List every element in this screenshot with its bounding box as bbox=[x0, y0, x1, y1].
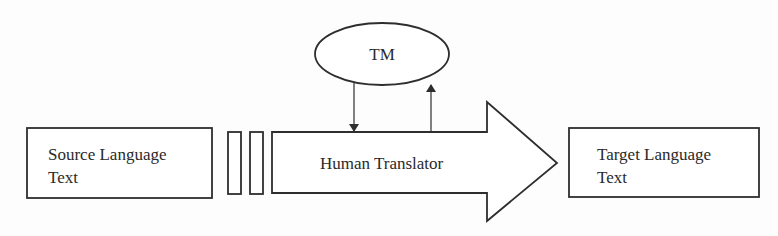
target-text-label-line1: Target Language bbox=[597, 145, 711, 164]
tm-node: TM bbox=[315, 23, 449, 85]
tm-label: TM bbox=[369, 45, 395, 64]
human-translator-label: Human Translator bbox=[320, 154, 444, 173]
source-text-label-line2: Text bbox=[48, 168, 78, 187]
source-text-label-line1: Source Language bbox=[48, 145, 166, 164]
target-text-node: Target Language Text bbox=[569, 128, 759, 197]
segment-bar-1 bbox=[228, 132, 241, 194]
segment-bars bbox=[228, 132, 263, 194]
segment-bar-2 bbox=[250, 132, 263, 194]
target-text-label-line2: Text bbox=[597, 168, 627, 187]
source-text-node: Source Language Text bbox=[27, 128, 212, 198]
translation-memory-diagram: Source Language Text Human Translator TM… bbox=[0, 0, 778, 236]
human-translator-node: Human Translator bbox=[272, 102, 557, 221]
